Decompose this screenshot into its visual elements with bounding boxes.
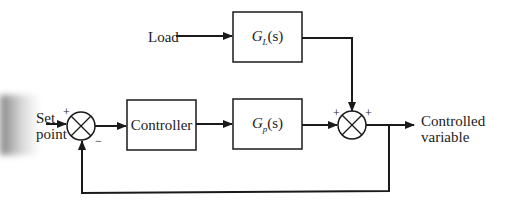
gl-symbol: G [252, 28, 263, 44]
gp-label: Gp(s) [233, 99, 302, 149]
gl-arg: (s) [268, 28, 284, 44]
gl-output-line [302, 38, 352, 111]
gp-arg: (s) [267, 115, 283, 131]
left-junction-plus: + [63, 106, 70, 118]
right-junction-plus-top: + [365, 107, 372, 119]
load-label: Load [148, 29, 179, 45]
output-label-line1: Controlled [421, 113, 485, 129]
controller-label: Controller [127, 100, 196, 150]
setpoint-label-line1: Set [36, 110, 55, 126]
setpoint-label-line2: point [36, 126, 67, 142]
gl-label: GL(s) [233, 12, 302, 62]
right-junction-plus-left: + [333, 107, 340, 119]
left-junction-minus: − [95, 135, 102, 147]
gp-symbol: G [252, 115, 263, 131]
output-label-line2: variable [421, 129, 469, 145]
